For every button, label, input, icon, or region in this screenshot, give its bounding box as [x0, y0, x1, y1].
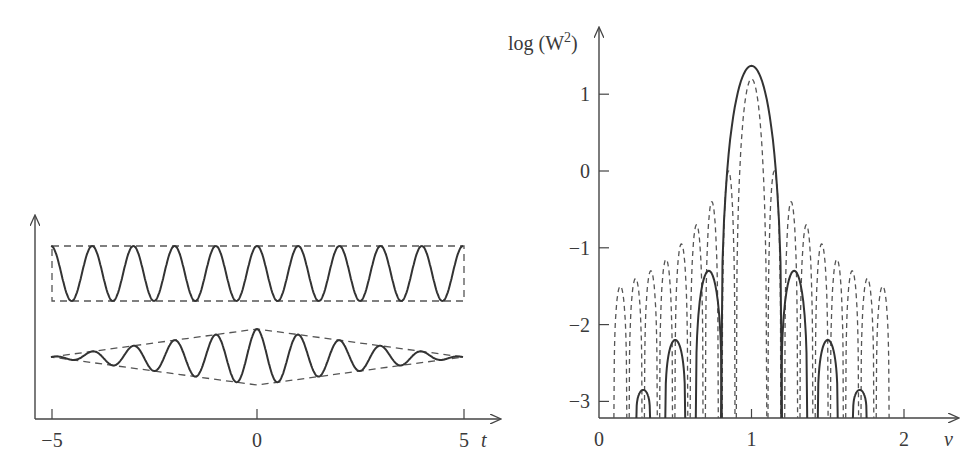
dashed-lobe — [846, 271, 859, 418]
constant-amplitude-wave — [51, 246, 463, 301]
y-tick-label: −2 — [569, 314, 590, 336]
dashed-lobe — [705, 202, 718, 418]
triangular-window-spectrum — [636, 66, 866, 418]
dashed-lobe — [614, 286, 627, 418]
figure: −5 0 5 t 10−1−2−3 012 log (W2) ν — [0, 0, 978, 469]
dashed-lobe — [736, 79, 767, 418]
dashed-lobe — [629, 279, 642, 419]
dashed-lobe — [785, 202, 798, 418]
left-tick-label-neg5: −5 — [41, 429, 62, 451]
left-chart: −5 0 5 t — [35, 216, 500, 451]
right-chart: 10−1−2−3 012 log (W2) ν — [508, 28, 958, 450]
left-x-label: t — [481, 429, 487, 451]
x-tick-label: 0 — [594, 428, 604, 450]
right-y-label-main: log (W — [508, 32, 564, 55]
x-tick-label: 2 — [899, 428, 909, 450]
right-y-label-close: ) — [571, 32, 578, 55]
dashed-lobe — [644, 271, 657, 418]
triangular-amplitude-wave — [51, 329, 463, 382]
dashed-lobe — [876, 286, 889, 418]
triangular-envelope — [51, 329, 463, 385]
y-tick-label: −3 — [569, 390, 590, 412]
rectangular-window-spectrum — [614, 79, 889, 418]
solid-lobe — [721, 66, 782, 418]
right-x-label: ν — [944, 428, 953, 450]
y-tick-label: 1 — [580, 83, 590, 105]
right-y-label-sup: 2 — [564, 30, 571, 45]
right-y-ticks: 10−1−2−3 — [569, 83, 609, 412]
left-tick-label-0: 0 — [252, 429, 262, 451]
y-tick-label: −1 — [569, 237, 590, 259]
dashed-lobe — [861, 279, 874, 419]
solid-lobe — [636, 390, 650, 418]
y-tick-label: 0 — [580, 160, 590, 182]
right-y-label: log (W2) — [508, 30, 578, 55]
x-tick-label: 1 — [747, 428, 757, 450]
left-tick-label-5: 5 — [459, 429, 469, 451]
right-x-ticks: 012 — [594, 409, 909, 450]
solid-lobe — [853, 390, 867, 418]
dashed-lobe — [815, 244, 828, 418]
constant-envelope — [52, 246, 464, 301]
dashed-lobe — [675, 244, 688, 418]
